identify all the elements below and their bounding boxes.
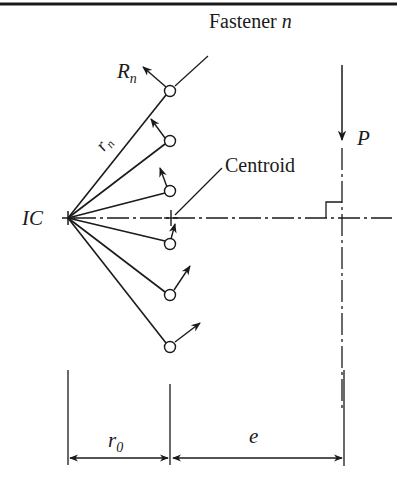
fastener	[165, 342, 176, 353]
fastener-leader	[175, 56, 208, 86]
fastener	[165, 136, 176, 147]
centroid-label: Centroid	[225, 154, 295, 176]
r0-label: r0	[108, 428, 123, 455]
fastener	[165, 186, 176, 197]
centroid-leader	[175, 168, 222, 215]
fastener	[165, 239, 176, 250]
radial-lines	[68, 95, 166, 343]
load-label: P	[356, 126, 370, 150]
fastener	[165, 290, 176, 301]
force-arrow-rn	[143, 67, 166, 87]
fasteners	[165, 86, 176, 353]
right-angle-symbol	[326, 202, 342, 218]
ic-label: IC	[21, 206, 44, 230]
fastener-group-diagram: Rn Fastener n rn Centroid IC P r0 e	[0, 0, 397, 489]
fastener-label: Fastener n	[209, 10, 292, 32]
radius-label: rn	[91, 132, 117, 156]
centroid-marker	[164, 210, 178, 226]
rn-label: Rn	[116, 59, 137, 86]
e-label: e	[249, 424, 258, 448]
fastener-n	[165, 86, 176, 97]
